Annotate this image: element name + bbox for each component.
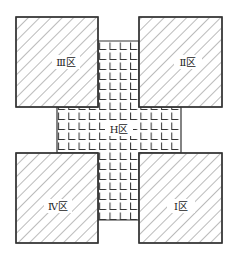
zone-iii: Ⅲ区 bbox=[16, 17, 98, 107]
zone-iii-label: Ⅲ区 bbox=[56, 57, 76, 68]
zone-ii-label: Ⅱ区 bbox=[180, 57, 197, 68]
zone-i-label: Ⅰ区 bbox=[174, 201, 188, 212]
zone-layout-diagram: Ⅲ区 Ⅱ区 Ⅳ区 Ⅰ区 H区 bbox=[0, 0, 238, 261]
zone-h-label: H区 bbox=[110, 124, 129, 135]
zone-iv-label: Ⅳ区 bbox=[48, 201, 68, 212]
zone-i: Ⅰ区 bbox=[139, 153, 222, 243]
zone-iv: Ⅳ区 bbox=[16, 153, 98, 243]
zone-ii: Ⅱ区 bbox=[139, 17, 222, 107]
